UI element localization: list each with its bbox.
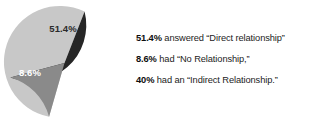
legend-item-direct-relationship: 51.4% answered “Direct relationship” bbox=[136, 28, 316, 49]
pie-chart: 51.4% 40% 8.6% bbox=[0, 0, 130, 127]
legend-item-indirect-relationship: 40% had an “Indirect Relationship.” bbox=[136, 70, 316, 91]
legend-item-no-relationship: 8.6% had “No Relationship,” bbox=[136, 49, 316, 70]
pie-slice-label-indirect-relationship: 40% bbox=[65, 81, 85, 92]
pie-slice-label-direct-relationship: 51.4% bbox=[49, 23, 77, 34]
legend: 51.4% answered “Direct relationship” 8.6… bbox=[136, 28, 316, 91]
pie-slice-label-no-relationship: 8.6% bbox=[19, 67, 42, 78]
legend-percent: 51.4% bbox=[136, 33, 162, 43]
legend-percent: 8.6% bbox=[136, 54, 157, 64]
legend-description: had an “Indirect Relationship.” bbox=[154, 75, 277, 85]
pie-chart-svg: 51.4% 40% 8.6% bbox=[0, 0, 130, 127]
pie-chart-figure: 51.4% 40% 8.6% 51.4% answered “Direct re… bbox=[0, 0, 318, 127]
legend-description: answered “Direct relationship” bbox=[162, 33, 285, 43]
legend-description: had “No Relationship,” bbox=[157, 54, 250, 64]
legend-percent: 40% bbox=[136, 75, 154, 85]
